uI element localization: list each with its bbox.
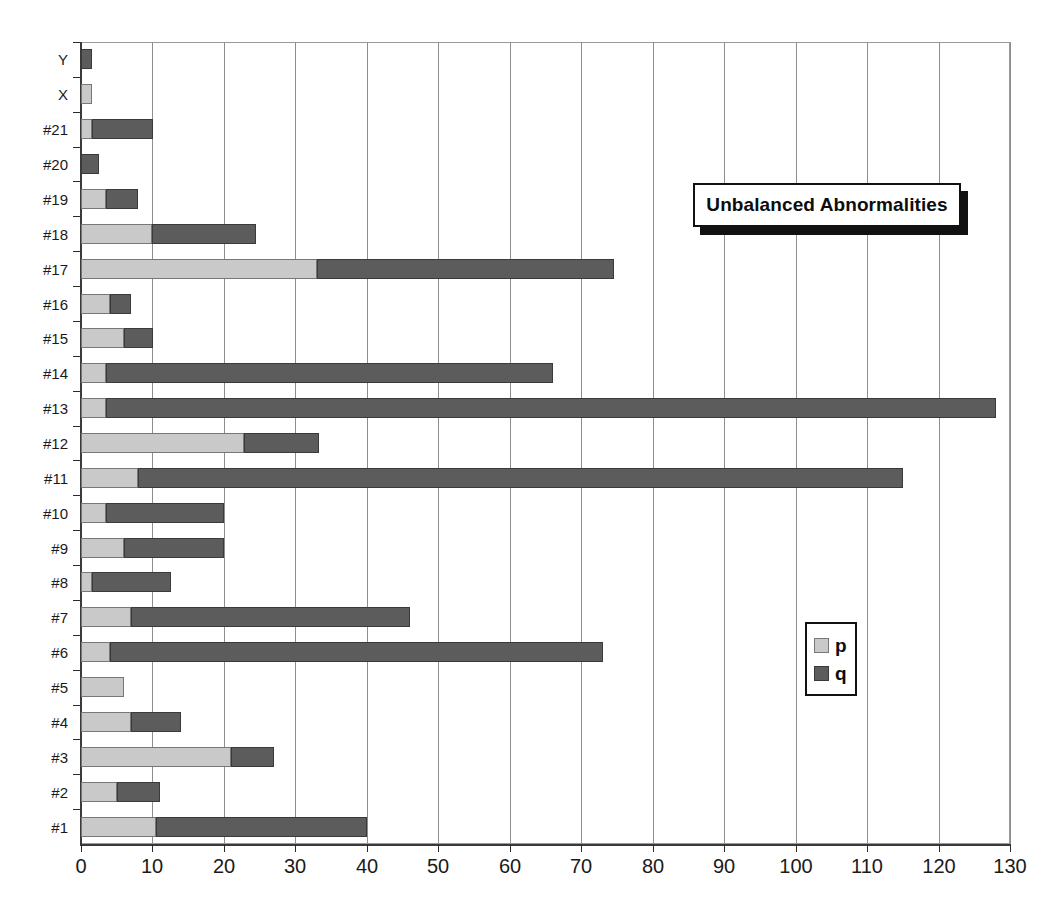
y-axis-tick: [73, 495, 80, 496]
bar-segment-p: [81, 259, 317, 279]
y-axis-category-label: #15: [43, 330, 68, 347]
bar-segment-p: [81, 328, 124, 348]
y-axis-category-label: #5: [51, 679, 68, 696]
y-axis-tick: [73, 426, 80, 427]
y-axis-category-label: #6: [51, 644, 68, 661]
bar-segment-q: [106, 503, 224, 523]
bar-segment-p: [81, 363, 106, 383]
legend-swatch-q-icon: [814, 666, 829, 681]
x-axis-tick: [867, 845, 868, 852]
x-axis-tick: [295, 845, 296, 852]
chart-root: 0102030405060708090100110120130 #1#2#3#4…: [0, 0, 1055, 902]
bar-segment-p: [81, 433, 244, 453]
bar-segment-p: [81, 817, 156, 837]
x-axis-tick: [939, 845, 940, 852]
bar-segment-p: [81, 782, 117, 802]
bar-segment-p: [81, 468, 138, 488]
bar-segment-p: [81, 677, 124, 697]
y-axis-category-label: #18: [43, 226, 68, 243]
x-axis-tick-label: 70: [570, 855, 592, 878]
y-axis-category-label: #4: [51, 714, 68, 731]
y-axis-tick: [73, 321, 80, 322]
gridline: [367, 42, 368, 844]
x-axis-tick: [510, 845, 511, 852]
bar-segment-p: [81, 538, 124, 558]
x-axis-tick-label: 10: [141, 855, 163, 878]
x-axis-tick-label: 30: [284, 855, 306, 878]
y-axis-category-label: #11: [44, 470, 68, 487]
gridline: [581, 42, 582, 844]
y-axis-tick: [73, 181, 80, 182]
y-axis-category-label: #9: [51, 540, 68, 557]
gridline: [1010, 42, 1011, 844]
bar-segment-q: [124, 538, 224, 558]
legend-item-p: p: [814, 631, 855, 659]
bar-segment-q: [131, 712, 181, 732]
bar-segment-q: [110, 642, 603, 662]
x-axis-tick-label: 100: [779, 855, 812, 878]
x-axis-tick-label: 60: [499, 855, 521, 878]
y-axis-tick: [73, 77, 80, 78]
x-axis-tick-label: 0: [75, 855, 86, 878]
bar-segment-p: [81, 189, 106, 209]
y-axis-tick: [73, 565, 80, 566]
x-axis-tick: [81, 845, 82, 852]
x-axis-tick: [438, 845, 439, 852]
x-axis-tick: [152, 845, 153, 852]
y-axis-tick: [73, 216, 80, 217]
y-axis-tick: [73, 705, 80, 706]
bar-segment-p: [81, 503, 106, 523]
y-axis-tick: [73, 670, 80, 671]
bar-segment-q: [244, 433, 319, 453]
x-axis-tick-label: 130: [993, 855, 1026, 878]
legend-label-p: p: [835, 636, 847, 655]
y-axis-category-label: #8: [51, 574, 68, 591]
gridline: [438, 42, 439, 844]
x-axis-tick-label: 20: [213, 855, 235, 878]
y-axis-category-label: #16: [43, 296, 68, 313]
bar-segment-q: [138, 468, 903, 488]
y-axis-tick: [73, 809, 80, 810]
x-axis-tick-label: 90: [713, 855, 735, 878]
y-axis-category-label: #2: [51, 784, 68, 801]
x-axis-tick-label: 110: [851, 855, 883, 878]
bar-segment-q: [106, 363, 553, 383]
bar-segment-q: [124, 328, 153, 348]
y-axis-tick: [73, 112, 80, 113]
bar-segment-p: [81, 747, 231, 767]
gridline: [724, 42, 725, 844]
bar-segment-p: [81, 607, 131, 627]
y-axis-category-label: #12: [43, 435, 68, 452]
gridline: [867, 42, 868, 844]
y-axis-category-label: #1: [51, 819, 68, 836]
legend-swatch-p-icon: [814, 638, 829, 653]
bar-segment-p: [81, 294, 110, 314]
y-axis-category-label: Y: [58, 51, 68, 68]
legend: p q: [805, 622, 857, 696]
y-axis-tick: [73, 42, 80, 43]
y-axis-category-label: #10: [43, 505, 68, 522]
bar-segment-q: [131, 607, 410, 627]
bar-segment-q: [231, 747, 274, 767]
bar-segment-p: [81, 712, 131, 732]
x-axis-tick-label: 80: [642, 855, 664, 878]
chart-title-box: Unbalanced Abnormalities: [693, 183, 961, 227]
y-axis-tick: [73, 391, 80, 392]
y-axis-category-label: #19: [43, 191, 68, 208]
y-axis-tick: [73, 635, 80, 636]
bar-segment-q: [117, 782, 160, 802]
y-axis-category-label: #13: [43, 400, 68, 417]
y-axis-category-label: #20: [43, 156, 68, 173]
y-axis-tick: [73, 600, 80, 601]
x-axis-tick-label: 40: [356, 855, 378, 878]
gridline: [796, 42, 797, 844]
x-axis-tick: [653, 845, 654, 852]
y-axis-tick: [73, 460, 80, 461]
bar-segment-q: [106, 189, 138, 209]
y-axis-tick: [73, 774, 80, 775]
y-axis-tick: [73, 356, 80, 357]
x-axis-tick: [224, 845, 225, 852]
x-axis-tick: [796, 845, 797, 852]
gridline: [510, 42, 511, 844]
y-axis-category-label: #14: [43, 365, 68, 382]
